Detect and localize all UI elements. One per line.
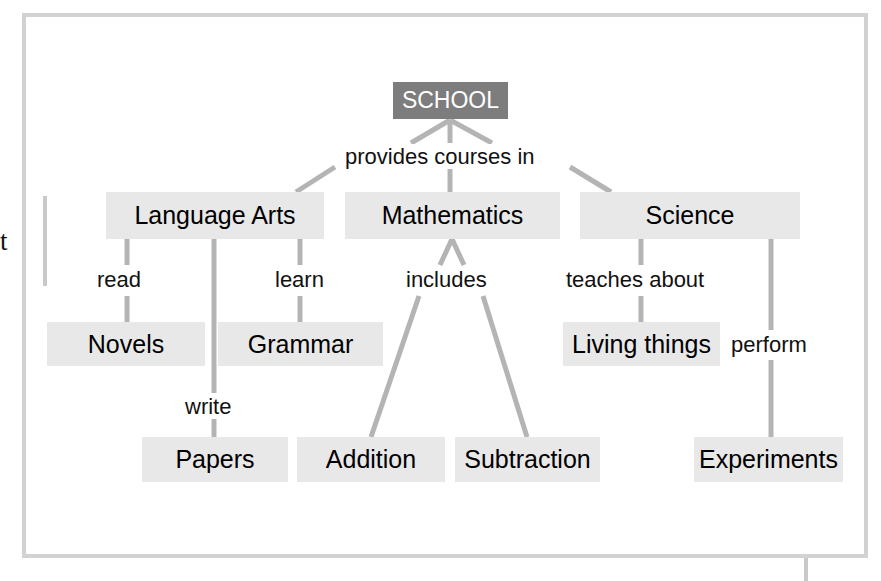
node-language-arts[interactable]: Language Arts (106, 192, 324, 239)
link-label-perform: perform (726, 332, 812, 357)
node-science[interactable]: Science (580, 192, 800, 239)
node-experiments[interactable]: Experiments (694, 437, 843, 482)
node-papers[interactable]: Papers (142, 437, 288, 482)
bottom-margin-rule (804, 558, 808, 581)
node-addition[interactable]: Addition (297, 437, 445, 482)
node-school[interactable]: SCHOOL (393, 82, 508, 119)
node-novels[interactable]: Novels (47, 322, 205, 366)
link-label-read: read (92, 267, 146, 292)
link-label-provides-courses-in: provides courses in (340, 144, 540, 169)
node-grammar[interactable]: Grammar (218, 322, 383, 366)
clipped-margin-letter: t (0, 228, 8, 255)
link-label-includes: includes (401, 267, 492, 292)
diagram-canvas: t (0, 0, 881, 581)
node-mathematics[interactable]: Mathematics (345, 192, 560, 239)
link-label-learn: learn (270, 267, 329, 292)
left-margin-rule (43, 196, 47, 286)
link-label-write: write (180, 394, 236, 419)
node-subtraction[interactable]: Subtraction (455, 437, 600, 482)
node-living-things[interactable]: Living things (563, 322, 720, 366)
link-label-teaches-about: teaches about (561, 267, 709, 292)
